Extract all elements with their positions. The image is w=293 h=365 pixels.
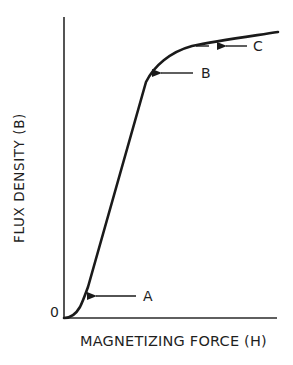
origin-label: 0 [50,305,59,319]
magnetization-curve [64,32,278,318]
y-axis-label: FLUX DENSITY (B) [13,113,27,243]
point-a-label: A [143,289,153,303]
point-c-label: C [253,39,263,53]
x-axis-label: MAGNETIZING FORCE (H) [80,334,267,349]
bh-curve-diagram [0,0,293,365]
point-b-label: B [201,66,211,80]
